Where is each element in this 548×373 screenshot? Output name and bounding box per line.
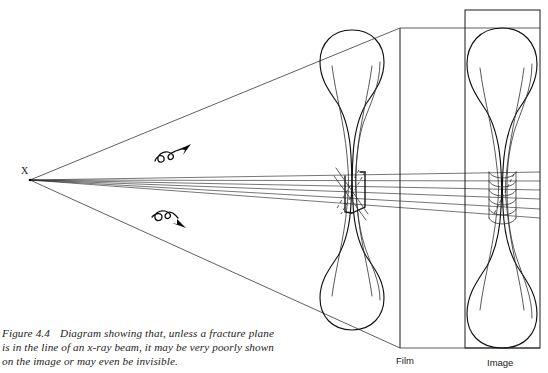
- image-label: Image: [487, 357, 513, 368]
- figure-4-4-root: X Film Image Figure 4.4Diagram showing t…: [0, 0, 548, 373]
- xray-beam-diagram: X Film Image: [0, 0, 548, 373]
- source-label: X: [21, 165, 29, 176]
- xray-source-point: X: [21, 165, 31, 181]
- figure-caption: Figure 4.4Diagram showing that, unless a…: [2, 326, 274, 369]
- figure-number: Figure 4.4: [2, 327, 50, 339]
- wave-arrow-down-right-icon: [152, 211, 186, 228]
- wave-arrow-up-right-icon: [155, 144, 191, 162]
- central-ray-bundle: [30, 172, 540, 218]
- film-label: Film: [396, 355, 414, 366]
- beam-cone-outline: [30, 28, 540, 348]
- object-bone: [320, 30, 384, 330]
- image-bone: [467, 28, 537, 348]
